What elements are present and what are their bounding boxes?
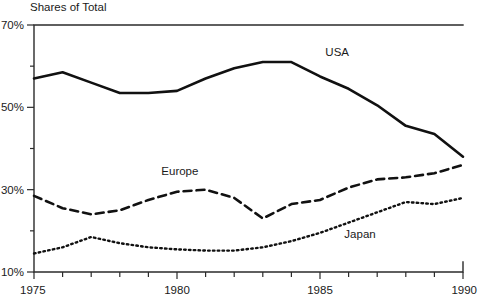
y-axis-tick-label: 10% [1,266,24,278]
shares-of-total-line-chart: 10%30%50%70%1975198019851990Shares of To… [0,0,483,305]
y-axis-tick-label: 70% [1,19,24,31]
x-axis-tick-label: 1980 [164,284,190,296]
y-axis-tick-label: 50% [1,101,24,113]
series-label-europe: Europe [161,165,198,177]
axis-frame [34,25,463,272]
chart-text-layer: 10%30%50%70%1975198019851990Shares of To… [1,1,477,296]
x-axis-tick-label: 1985 [307,284,333,296]
chart-series-layer [34,62,463,253]
series-line-japan [34,198,463,254]
series-line-europe [34,165,463,219]
series-line-usa [34,62,463,157]
series-label-usa: USA [325,46,349,58]
chart-axes [27,25,463,279]
x-axis-tick-label: 1975 [20,284,46,296]
chart-container: 10%30%50%70%1975198019851990Shares of To… [0,0,483,305]
y-axis-tick-label: 30% [1,184,24,196]
x-axis-tick-label: 1990 [451,284,477,296]
series-label-japan: Japan [344,228,375,240]
chart-title: Shares of Total [30,1,107,13]
